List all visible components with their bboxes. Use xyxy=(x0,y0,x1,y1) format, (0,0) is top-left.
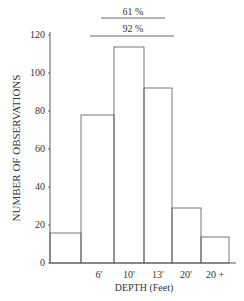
x-axis-label: DEPTH (Feet) xyxy=(115,282,174,294)
bar-4 xyxy=(144,88,172,263)
svg-text:6': 6' xyxy=(96,269,103,280)
svg-text:100: 100 xyxy=(30,67,45,78)
annotation-61-percent: 61 % xyxy=(123,6,144,17)
svg-text:60: 60 xyxy=(35,143,45,154)
bar-3 xyxy=(114,47,144,263)
y-axis-label: NUMBER OF OBSERVATIONS xyxy=(10,75,22,222)
bars xyxy=(50,47,229,263)
svg-text:20': 20' xyxy=(180,269,192,280)
svg-text:0: 0 xyxy=(40,257,45,268)
y-tick-labels: 0 20 40 60 80 100 120 xyxy=(30,29,45,268)
svg-text:10': 10' xyxy=(123,269,135,280)
x-tick-labels: 6' 10' 13' 20' 20 + xyxy=(96,269,225,280)
svg-text:20: 20 xyxy=(35,219,45,230)
svg-text:40: 40 xyxy=(35,181,45,192)
bar-6 xyxy=(201,237,229,263)
svg-text:120: 120 xyxy=(30,29,45,40)
svg-text:20 +: 20 + xyxy=(206,269,225,280)
bar-5 xyxy=(172,208,201,263)
annotation-92-percent: 92 % xyxy=(123,23,144,34)
svg-text:80: 80 xyxy=(35,105,45,116)
histogram-chart: 61 % 92 % 0 20 40 60 80 100 120 NUMBER O… xyxy=(0,0,244,301)
bar-1 xyxy=(50,233,81,263)
bar-2 xyxy=(81,115,114,263)
svg-text:13': 13' xyxy=(152,269,164,280)
